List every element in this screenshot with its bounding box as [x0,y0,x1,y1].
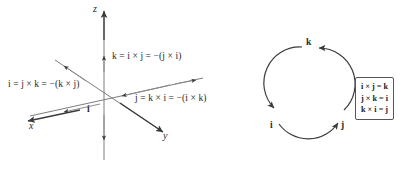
i-cross-product-equation: i = j × k = −(k × j) [8,80,80,90]
y-axis-arrow [120,103,163,132]
rule-line-jk: j × k = i [361,93,388,105]
circle-node-i-label: i [270,121,273,131]
rule-line-ij: i × j = k [361,81,388,93]
y-axis-label: y [163,131,167,141]
x-axis-label: x [29,121,33,131]
circle-node-k-label: k [306,38,311,48]
cycle-arc-k-to-i [264,47,302,108]
i-vector-label: i [87,105,90,115]
j-cross-product-equation: j = k × i = −(i × k) [135,94,207,104]
z-axis-label: z [93,4,97,14]
x-axis-right-tick [175,80,196,84]
x-axis-i-arrow [64,104,100,112]
x-axis-arrow [28,110,80,121]
figure-canvas: z x y i k = i × j = −(j × i) i = j × k =… [0,0,418,172]
rule-line-ki: k × i = j [361,104,388,116]
circle-node-j-label: j [341,121,344,131]
cross-product-rule-box: i × j = k j × k = i k × i = j [355,77,394,120]
k-cross-product-equation: k = i × j = −(j × i) [112,52,181,62]
cycle-arc-i-to-j [279,123,338,139]
cycle-arc-j-to-k [319,48,355,110]
